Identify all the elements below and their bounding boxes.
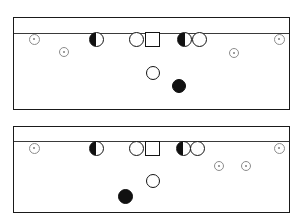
small-circle xyxy=(29,34,40,45)
figure-canvas xyxy=(0,0,303,224)
top-panel xyxy=(13,17,290,110)
open-circle xyxy=(129,141,144,156)
open-circle xyxy=(192,32,207,47)
open-circle xyxy=(146,174,160,188)
half-circle xyxy=(177,32,192,47)
small-circle xyxy=(229,48,239,58)
half-circle xyxy=(89,32,104,47)
small-circle xyxy=(29,143,40,154)
small-circle xyxy=(59,47,69,57)
small-circle xyxy=(214,161,224,171)
small-circle xyxy=(274,143,285,154)
small-circle xyxy=(274,34,285,45)
square xyxy=(145,141,160,156)
open-circle xyxy=(129,32,144,47)
small-circle xyxy=(241,161,251,171)
open-circle xyxy=(146,66,160,80)
solid-circle xyxy=(172,79,186,93)
half-circle xyxy=(89,141,104,156)
square xyxy=(145,32,160,47)
half-circle xyxy=(176,141,191,156)
solid-circle xyxy=(118,189,133,204)
open-circle xyxy=(190,141,205,156)
bottom-panel xyxy=(13,126,290,213)
